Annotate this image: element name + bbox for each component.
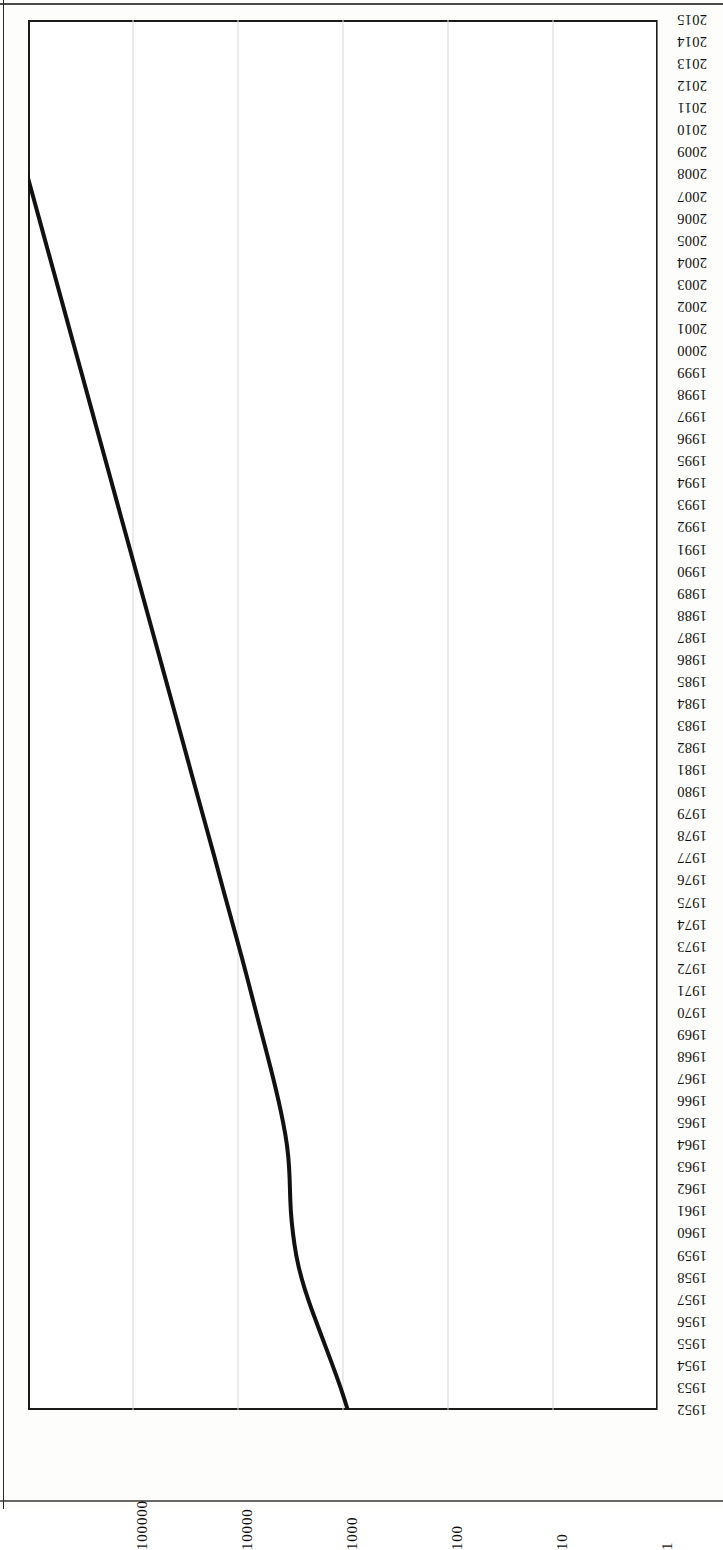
year-tick-label: 1964 (666, 1138, 718, 1152)
year-tick-label: 1965 (666, 1116, 718, 1130)
year-tick-label: 1978 (666, 829, 718, 843)
year-tick-label: 1983 (666, 719, 718, 733)
year-tick-label: 2010 (666, 123, 718, 137)
year-tick-label: 2008 (666, 167, 718, 181)
year-tick-label: 1984 (666, 697, 718, 711)
year-tick-label: 2007 (666, 190, 718, 204)
year-tick-label: 1999 (666, 366, 718, 380)
year-tick-label: 1980 (666, 785, 718, 799)
year-tick-label: 1971 (666, 984, 718, 998)
year-tick-label: 2011 (666, 101, 718, 115)
year-tick-label: 2000 (666, 344, 718, 358)
year-tick-label: 1957 (666, 1293, 718, 1307)
year-tick-label: 1966 (666, 1094, 718, 1108)
year-tick-label: 1958 (666, 1271, 718, 1285)
year-tick-label: 1974 (666, 918, 718, 932)
year-tick-label: 1954 (666, 1359, 718, 1373)
year-tick-label: 1955 (666, 1337, 718, 1351)
year-tick-label: 2012 (666, 79, 718, 93)
year-tick-label: 1989 (666, 587, 718, 601)
value-tick-label: 1 (658, 1458, 676, 1550)
year-tick-label: 1979 (666, 807, 718, 821)
year-tick-label: 2004 (666, 256, 718, 270)
data-line-series-1 (28, 20, 348, 1410)
value-tick-label: 100 (448, 1458, 466, 1550)
value-tick-label: 10 (553, 1458, 571, 1550)
value-axis-log: 100000100001000100101 (0, 1416, 723, 1508)
year-tick-label: 1986 (666, 653, 718, 667)
year-tick-label: 1976 (666, 873, 718, 887)
year-tick-label: 2015 (666, 13, 718, 27)
page-edge-line-top (0, 3, 723, 5)
year-tick-label: 1970 (666, 1006, 718, 1020)
year-tick-label: 2001 (666, 322, 718, 336)
year-tick-label: 1994 (666, 476, 718, 490)
value-tick-label: 100000 (133, 1458, 151, 1550)
year-tick-label: 1969 (666, 1028, 718, 1042)
year-tick-label: 1973 (666, 940, 718, 954)
year-tick-label: 1959 (666, 1249, 718, 1263)
year-tick-label: 1960 (666, 1226, 718, 1240)
value-tick-label: 1000 (343, 1458, 361, 1550)
year-tick-label: 2005 (666, 234, 718, 248)
year-tick-label: 1996 (666, 432, 718, 446)
year-tick-label: 1990 (666, 565, 718, 579)
year-tick-label: 1987 (666, 631, 718, 645)
year-tick-label: 1997 (666, 410, 718, 424)
chart (28, 20, 658, 1410)
year-tick-label: 1988 (666, 609, 718, 623)
year-tick-label: 1961 (666, 1204, 718, 1218)
year-tick-label: 1982 (666, 741, 718, 755)
year-tick-label: 1985 (666, 675, 718, 689)
year-tick-label: 2002 (666, 300, 718, 314)
gridlines (133, 20, 658, 1410)
year-tick-label: 1956 (666, 1315, 718, 1329)
year-tick-label: 2003 (666, 278, 718, 292)
year-tick-label: 1952 (666, 1403, 718, 1417)
category-axis-years: 2015201420132012201120102009200820072006… (664, 20, 720, 1410)
plot-canvas (28, 20, 658, 1410)
year-tick-label: 2013 (666, 57, 718, 71)
year-tick-label: 1968 (666, 1050, 718, 1064)
year-tick-label: 2014 (666, 35, 718, 49)
value-tick-label: 10000 (238, 1458, 256, 1550)
year-tick-label: 1998 (666, 388, 718, 402)
year-tick-label: 1972 (666, 962, 718, 976)
year-tick-label: 1992 (666, 520, 718, 534)
year-tick-label: 1977 (666, 851, 718, 865)
year-tick-label: 1967 (666, 1072, 718, 1086)
year-tick-label: 1953 (666, 1381, 718, 1395)
page-edge-line-left (3, 0, 4, 1509)
year-tick-label: 1975 (666, 896, 718, 910)
year-tick-label: 1995 (666, 454, 718, 468)
year-tick-label: 1962 (666, 1182, 718, 1196)
year-tick-label: 1991 (666, 543, 718, 557)
year-tick-label: 1993 (666, 498, 718, 512)
year-tick-label: 2006 (666, 212, 718, 226)
year-tick-label: 2009 (666, 145, 718, 159)
year-tick-label: 1981 (666, 763, 718, 777)
year-tick-label: 1963 (666, 1160, 718, 1174)
